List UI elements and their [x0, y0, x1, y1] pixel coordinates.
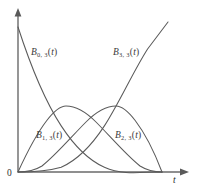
curve-label-b03: B0, 3(t)	[31, 48, 57, 58]
curve-b33	[18, 22, 168, 172]
curve-label-b13-sub: 1, 3	[42, 134, 53, 141]
curve-label-b03-sub: 0, 3	[37, 51, 48, 58]
curve-label-b33: B3, 3(t)	[113, 48, 139, 58]
curve-label-b23-var: t	[135, 130, 138, 140]
y-axis-arrowhead	[15, 8, 22, 17]
curve-label-b03-var: t	[51, 47, 54, 57]
plot-canvas	[0, 0, 198, 194]
curve-label-b33-var: t	[133, 47, 136, 57]
curve-label-b23-sub: 2, 3	[121, 134, 132, 141]
curve-label-b33-sub: 3, 3	[119, 51, 130, 58]
x-axis-arrowhead	[180, 169, 189, 176]
curve-label-b33-arg: (t)	[130, 47, 140, 57]
curve-label-b23: B2, 3(t)	[115, 131, 141, 141]
x-axis-label: t	[173, 176, 176, 186]
origin-label: 0	[7, 169, 12, 179]
curve-label-b13-var: t	[56, 130, 59, 140]
curve-label-b13-arg: (t)	[53, 130, 63, 140]
curve-label-b23-arg: (t)	[132, 130, 142, 140]
curve-label-b03-arg: (t)	[48, 47, 58, 57]
curve-label-b13: B1, 3(t)	[36, 131, 62, 141]
bernstein-basis-figure: B0, 3(t) B3, 3(t) B1, 3(t) B2, 3(t) 0 t	[0, 0, 198, 194]
